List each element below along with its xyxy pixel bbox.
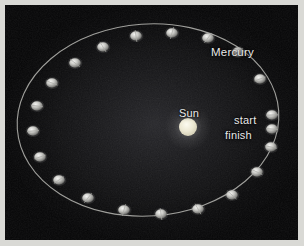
sun-disc — [179, 118, 197, 136]
sky-grain — [5, 5, 298, 240]
sun-group — [165, 104, 212, 151]
figure-frame: Mercury Sun start finish — [0, 0, 304, 246]
orbit-diagram-svg — [5, 5, 298, 240]
sky-canvas: Mercury Sun start finish — [5, 5, 298, 240]
